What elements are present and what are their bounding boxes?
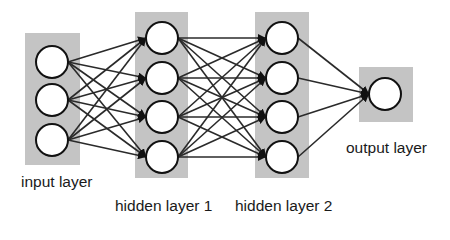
hidden1-node-3	[146, 101, 178, 133]
hidden1-node-1	[146, 22, 178, 54]
hidden2-node-1	[266, 22, 298, 54]
hidden2-node-2	[266, 62, 298, 94]
hidden1-node-4	[146, 141, 178, 173]
hidden2-node-4	[266, 141, 298, 173]
hidden2-node-3	[266, 101, 298, 133]
output-node-1	[369, 78, 401, 110]
hidden-layer-2-label: hidden layer 2	[235, 198, 332, 214]
output-layer-label: output layer	[346, 140, 427, 156]
input-node-2	[36, 84, 68, 116]
hidden-layer-1-label: hidden layer 1	[115, 198, 212, 214]
input-node-1	[36, 46, 68, 78]
input-layer-label: input layer	[21, 174, 93, 190]
input-node-3	[36, 124, 68, 156]
hidden1-node-2	[146, 62, 178, 94]
